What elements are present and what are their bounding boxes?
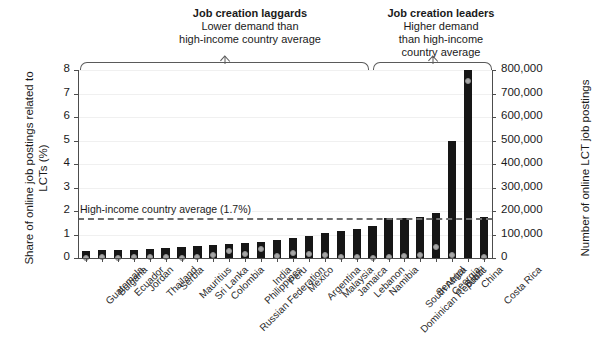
y-axis-left-label: 2 xyxy=(34,203,70,215)
chart-root: Job creation laggards Lower demand than … xyxy=(0,0,594,362)
y-axis-left-label: 4 xyxy=(34,156,70,168)
y-axis-left-line xyxy=(78,70,79,258)
y-axis-right-label: 500,000 xyxy=(501,133,571,145)
y-axis-right-line xyxy=(492,70,493,258)
annotation-laggards: Job creation laggards Lower demand than … xyxy=(130,7,370,46)
reference-line xyxy=(78,218,492,220)
scatter-point xyxy=(258,246,264,252)
scatter-point xyxy=(290,250,296,256)
gridline xyxy=(78,94,492,95)
y-axis-right-label: 300,000 xyxy=(501,180,571,192)
y-axis-right-tick xyxy=(492,258,496,259)
gridline xyxy=(78,164,492,165)
gridline xyxy=(78,235,492,236)
y-axis-left-label: 7 xyxy=(34,86,70,98)
x-axis-line xyxy=(78,258,492,259)
y-axis-right-label: 800,000 xyxy=(501,62,571,74)
gridline xyxy=(78,141,492,142)
x-axis-category-label: Costa Rica xyxy=(501,264,543,306)
y-axis-left-label: 3 xyxy=(34,180,70,192)
reference-line-label: High-income country average (1.7%) xyxy=(79,203,252,215)
bar xyxy=(384,218,392,258)
annotation-laggards-sub-line-1: Lower demand than xyxy=(130,20,370,33)
y-axis-left-label: 6 xyxy=(34,109,70,121)
annotation-leaders-sub-line-1: Higher demand xyxy=(371,20,511,33)
bar xyxy=(480,217,488,258)
annotation-leaders-header: Job creation leaders xyxy=(371,7,511,20)
annotation-leaders-sub-line-2: than high-income xyxy=(371,33,511,46)
bracket-leaders-tick xyxy=(432,56,433,64)
bracket-laggards-tick xyxy=(224,56,225,64)
y-axis-left-label: 8 xyxy=(34,62,70,74)
gridline xyxy=(78,117,492,118)
scatter-point xyxy=(242,251,248,257)
y-axis-left-label: 0 xyxy=(34,250,70,262)
y-axis-right-label: 200,000 xyxy=(501,203,571,215)
annotation-leaders: Job creation leaders Higher demand than … xyxy=(371,7,511,59)
y-axis-right-title: Number of online LCT job postings xyxy=(578,68,592,268)
y-axis-right-label: 700,000 xyxy=(501,86,571,98)
bar xyxy=(464,70,472,258)
annotation-laggards-sub-line-2: high-income country average xyxy=(130,33,370,46)
scatter-point xyxy=(465,78,471,84)
bar xyxy=(400,218,408,258)
bar xyxy=(368,226,376,258)
y-axis-right-label: 100,000 xyxy=(501,227,571,239)
annotation-laggards-header: Job creation laggards xyxy=(130,7,370,20)
y-axis-left-label: 1 xyxy=(34,227,70,239)
y-axis-right-label: 400,000 xyxy=(501,156,571,168)
y-axis-left-label: 5 xyxy=(34,133,70,145)
gridline xyxy=(78,70,492,71)
plot-area: 0123456780100,000200,000300,000400,00050… xyxy=(78,70,492,258)
y-axis-right-label: 0 xyxy=(501,250,571,262)
bar xyxy=(448,141,456,259)
y-axis-right-label: 600,000 xyxy=(501,109,571,121)
annotation-leaders-sub-line-3: country average xyxy=(371,46,511,59)
gridline xyxy=(78,188,492,189)
